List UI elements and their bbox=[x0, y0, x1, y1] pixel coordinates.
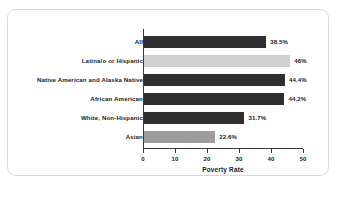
bar-row: White, Non-Hispanic 31.7% bbox=[8, 108, 330, 127]
x-axis-title: Poverty Rate bbox=[143, 166, 303, 173]
bar-row: All 38.5% bbox=[8, 32, 330, 51]
bar[interactable] bbox=[143, 55, 290, 67]
bar-track: 31.7% bbox=[143, 108, 303, 127]
bar-row: Latina/o or Hispanic 46% bbox=[8, 51, 330, 70]
x-axis-line bbox=[143, 148, 303, 149]
bar-value-label: 31.7% bbox=[248, 111, 266, 124]
bar-value-label: 22.6% bbox=[219, 130, 237, 143]
x-tick-label: 10 bbox=[163, 155, 187, 162]
x-tick-mark bbox=[239, 149, 240, 153]
category-label: Native American and Alaska Native bbox=[37, 70, 143, 89]
x-tick-mark bbox=[143, 149, 144, 153]
bar-value-label: 44.4% bbox=[289, 73, 307, 86]
bar-track: 44.4% bbox=[143, 70, 303, 89]
chart-frame: All 38.5% Latina/o or Hispanic 46% Nativ… bbox=[7, 9, 329, 176]
bar-value-label: 44.2% bbox=[288, 92, 306, 105]
bar-row: Native American and Alaska Native 44.4% bbox=[8, 70, 330, 89]
bar-track: 44.2% bbox=[143, 89, 303, 108]
bar[interactable] bbox=[143, 93, 284, 105]
bar[interactable] bbox=[143, 74, 285, 86]
x-tick-label: 30 bbox=[227, 155, 251, 162]
x-tick-label: 0 bbox=[131, 155, 155, 162]
category-label: All bbox=[135, 32, 143, 51]
category-label: Latina/o or Hispanic bbox=[82, 51, 143, 70]
bar-value-label: 38.5% bbox=[270, 35, 288, 48]
bar-row: Asian 22.6% bbox=[8, 127, 330, 146]
x-tick-label: 20 bbox=[195, 155, 219, 162]
category-label: Asian bbox=[126, 127, 143, 146]
bar[interactable] bbox=[143, 131, 215, 143]
x-tick-mark bbox=[271, 149, 272, 153]
bar-row: African American 44.2% bbox=[8, 89, 330, 108]
category-label: African American bbox=[90, 89, 143, 108]
bar-track: 22.6% bbox=[143, 127, 303, 146]
bar-track: 38.5% bbox=[143, 32, 303, 51]
bar[interactable] bbox=[143, 112, 244, 124]
x-tick-label: 40 bbox=[259, 155, 283, 162]
x-tick-mark bbox=[303, 149, 304, 153]
bar-chart-plot-area: All 38.5% Latina/o or Hispanic 46% Nativ… bbox=[8, 10, 330, 177]
category-label: White, Non-Hispanic bbox=[81, 108, 143, 127]
x-tick-mark bbox=[175, 149, 176, 153]
bar-value-label: 46% bbox=[294, 54, 307, 67]
x-tick-label: 50 bbox=[291, 155, 315, 162]
y-axis-line bbox=[143, 29, 144, 148]
x-tick-mark bbox=[207, 149, 208, 153]
bar[interactable] bbox=[143, 36, 266, 48]
bar-track: 46% bbox=[143, 51, 303, 70]
